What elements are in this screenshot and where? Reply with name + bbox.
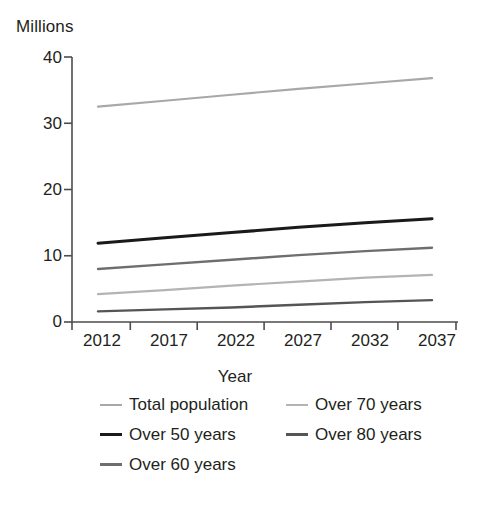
chart-legend: Total population Over 70 years Over 50 y… [100,395,430,485]
legend-label-over-70-years: Over 70 years [315,395,422,414]
legend-item-over-60-years[interactable]: Over 60 years [100,455,286,474]
legend-row: Total population Over 70 years [100,395,430,414]
series-line-over-70-years [98,275,432,294]
legend-label-over-80-years: Over 80 years [315,425,422,444]
plot-area [0,0,490,360]
legend-swatch-over-70-years [286,404,308,406]
legend-swatch-over-50-years [100,433,122,436]
x-axis-title: Year [0,367,470,387]
series-line-over-60-years [98,248,432,269]
legend-row: Over 50 years Over 80 years [100,425,430,444]
axis-lines [72,57,458,322]
y-axis-ticks [64,57,72,322]
line-chart-figure: Millions 40 30 20 10 0 2012 2017 2022 20… [0,0,490,515]
series-line-over-50-years [98,219,432,244]
x-axis-ticks [72,322,456,330]
legend-swatch-total-population [100,404,122,406]
legend-label-over-60-years: Over 60 years [129,455,236,474]
legend-label-over-50-years: Over 50 years [129,425,236,444]
legend-item-over-70-years[interactable]: Over 70 years [286,395,422,414]
legend-label-total-population: Total population [129,395,248,414]
legend-item-over-80-years[interactable]: Over 80 years [286,425,422,444]
legend-item-over-50-years[interactable]: Over 50 years [100,425,286,444]
legend-swatch-over-60-years [100,463,122,466]
legend-item-total-population[interactable]: Total population [100,395,286,414]
series-line-over-80-years [98,300,432,311]
legend-swatch-over-80-years [286,433,308,436]
data-series-group [98,78,432,311]
legend-row: Over 60 years [100,455,430,474]
series-line-total-population [98,78,432,106]
